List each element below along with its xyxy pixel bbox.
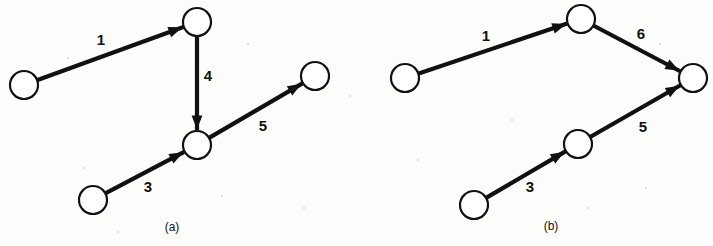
graph-node-a2: [183, 8, 211, 36]
arrowhead-icon: [168, 152, 183, 163]
edge-shaft: [419, 24, 568, 74]
arrowhead-icon: [192, 116, 203, 130]
edge-b4-to-b3: 5: [591, 85, 681, 137]
speckle: [587, 207, 589, 209]
speckle: [247, 43, 249, 45]
graph-panel-a: 1453(a): [10, 8, 329, 234]
edge-b5-to-b4: 3: [487, 151, 566, 197]
edge-b2-to-b3: 6: [594, 25, 680, 71]
edge-layer: 1653: [419, 23, 681, 197]
arrowhead-icon: [287, 84, 302, 96]
speckle: [221, 195, 223, 197]
graph-node-a4: [301, 62, 329, 90]
edge-layer: 1453: [38, 27, 303, 195]
arrowhead-icon: [664, 59, 679, 70]
edge-weight-label: 1: [97, 31, 105, 48]
edge-weight-label: 5: [259, 117, 267, 134]
speckle: [117, 231, 119, 233]
graph-node-b1: [391, 64, 419, 92]
arrowhead-icon: [550, 152, 565, 164]
graph-node-a1: [10, 71, 38, 99]
edge-weight-label: 1: [482, 27, 490, 44]
arrowhead-icon: [167, 27, 182, 37]
graph-node-b4: [564, 130, 592, 158]
node-layer: [10, 8, 329, 214]
graph-node-a3: [183, 131, 211, 159]
arrowhead-icon: [665, 86, 680, 98]
speckle: [511, 119, 513, 121]
arrowhead-icon: [551, 23, 566, 33]
speckle: [67, 57, 69, 59]
graph-node-b3: [679, 64, 707, 92]
graph-node-b2: [567, 5, 595, 33]
edge-a3-to-a4: 5: [210, 83, 303, 137]
edge-weight-label: 3: [526, 178, 534, 195]
graph-node-a5: [79, 186, 107, 214]
edge-b1-to-b2: 1: [419, 23, 568, 73]
edge-shaft: [38, 27, 184, 80]
directed-graph-pair-figure: 1453(a)1653(b): [0, 0, 713, 246]
edge-a2-to-a3: 4: [192, 37, 213, 131]
speckle: [83, 167, 85, 169]
edge-weight-label: 6: [637, 25, 645, 42]
edge-weight-label: 4: [204, 67, 213, 84]
figure-canvas: 1453(a)1653(b): [0, 0, 713, 246]
speckle: [417, 159, 419, 161]
panel-caption-a: (a): [165, 220, 180, 234]
edge-a5-to-a3: 3: [106, 152, 184, 195]
graph-node-b5: [460, 191, 488, 219]
panel-caption-b: (b): [544, 219, 559, 233]
speckle: [349, 95, 351, 97]
speckle: [659, 43, 661, 45]
edge-weight-label: 3: [144, 178, 152, 195]
edge-a1-to-a2: 1: [38, 27, 184, 80]
graph-panel-b: 1653(b): [391, 5, 707, 233]
edge-shaft: [210, 83, 303, 137]
edge-weight-label: 5: [639, 118, 647, 135]
node-layer: [391, 5, 707, 219]
edge-shaft: [591, 85, 681, 137]
speckle: [645, 187, 647, 189]
speckle: [303, 207, 305, 209]
